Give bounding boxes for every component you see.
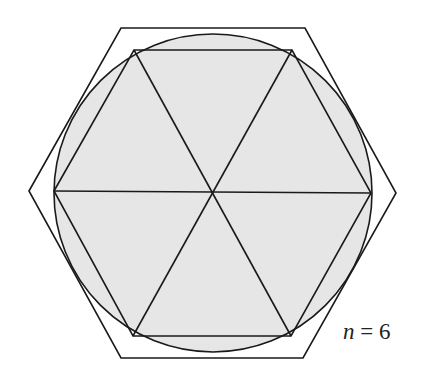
hexagon-circle-diagram xyxy=(0,0,421,370)
n-value: 6 xyxy=(379,319,391,344)
n-label: n = 6 xyxy=(343,319,390,345)
equals-sign: = xyxy=(355,319,379,344)
n-variable: n xyxy=(343,319,355,344)
